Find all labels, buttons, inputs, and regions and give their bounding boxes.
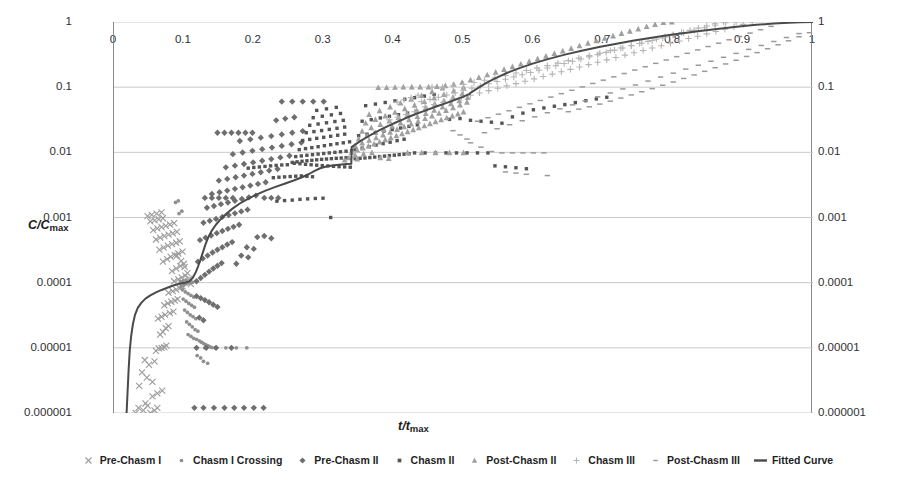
legend-item-pre-chasm-ii[interactable]: Pre-Chasm II [296, 454, 378, 467]
line-marker-icon [754, 454, 767, 467]
legend-item-label: Fitted Curve [772, 455, 833, 466]
legend-item-fitted-curve[interactable]: Fitted Curve [754, 454, 833, 467]
y-axis-tick-label-right: 0.01 [818, 146, 840, 158]
plot-canvas [114, 22, 813, 413]
legend-item-pre-chasm-i[interactable]: Pre-Chasm I [82, 454, 161, 467]
y-axis-tick-label-left: 0.00001 [30, 342, 72, 354]
dash-marker-icon [649, 454, 662, 467]
gridlines [114, 22, 813, 413]
legend-item-label: Post-Chasm II [486, 455, 556, 466]
y-axis-tick-label-left: 0.001 [43, 212, 72, 224]
chart-legend: Pre-Chasm IChasm I CrossingPre-Chasm IIC… [0, 450, 915, 470]
legend-item-chasm-ii[interactable]: Chasm II [393, 454, 455, 467]
legend-item-chasm-iii[interactable]: Chasm III [570, 454, 635, 467]
series-3 [191, 98, 327, 411]
legend-item-label: Post-Chasm III [667, 455, 740, 466]
legend-item-label: Chasm II [411, 455, 455, 466]
plus-marker-icon [570, 454, 583, 467]
y-axis-title-subscript: max [50, 222, 69, 233]
y-axis-tick-label-right: 0.1 [818, 81, 834, 93]
x-axis-title-base: t/t [398, 419, 410, 433]
y-axis-tick-label-left: 1 [66, 16, 72, 28]
y-axis-tick-label-right: 0.0001 [818, 277, 853, 289]
y-axis-tick-label-left: 0.000001 [24, 407, 72, 419]
y-axis-tick-label-right: 1 [818, 16, 824, 28]
y-axis-tick-label-right: 0.000001 [818, 407, 866, 419]
y-axis-tick-label-right: 0.00001 [818, 342, 860, 354]
chart-container: C/Cmax t/tmax 10.10.010.0010.00010.00001… [0, 0, 915, 482]
diamond-marker-icon [296, 454, 309, 467]
legend-item-label: Chasm I Crossing [193, 455, 282, 466]
y-axis-tick-label-left: 0.1 [56, 81, 72, 93]
legend-item-post-chasm-ii[interactable]: Post-Chasm II [468, 454, 556, 467]
circle-marker-icon [175, 454, 188, 467]
y-axis-tick-label-left: 0.01 [50, 146, 72, 158]
triangle-marker-icon [468, 454, 481, 467]
series-4 [247, 93, 609, 219]
x-axis-title: t/tmax [398, 420, 429, 433]
plot-area [113, 22, 812, 413]
x-marker-icon [82, 454, 95, 467]
legend-item-label: Pre-Chasm I [100, 455, 161, 466]
legend-item-label: Chasm III [588, 455, 635, 466]
legend-item-chasm-i-crossing[interactable]: Chasm I Crossing [175, 454, 282, 467]
y-axis-tick-label-right: 0.001 [818, 212, 847, 224]
legend-item-label: Pre-Chasm II [314, 455, 378, 466]
legend-item-post-chasm-iii[interactable]: Post-Chasm III [649, 454, 740, 467]
y-axis-tick-label-left: 0.0001 [37, 277, 72, 289]
x-axis-title-subscript: max [410, 423, 429, 434]
square-marker-icon [393, 454, 406, 467]
